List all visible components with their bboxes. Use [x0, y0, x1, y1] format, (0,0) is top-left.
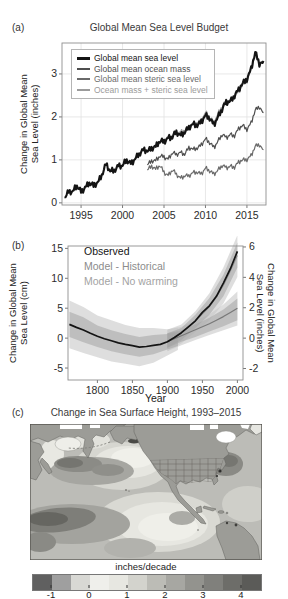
x-tick-label: 2015 [235, 209, 259, 221]
colorbar-tick-labels: -101234 [32, 589, 260, 599]
colorbar-segment [185, 575, 204, 590]
colorbar-tick-mark [127, 585, 128, 588]
colorbar-segment [147, 575, 166, 590]
colorbar-tick-mark [203, 585, 204, 588]
colorbar-tick-label: 3 [200, 589, 205, 599]
sea-surface-height-map [30, 424, 262, 560]
legend-label: Global mean sea level [94, 53, 178, 63]
colorbar-segment [223, 575, 242, 590]
colorbar-tick-mark [241, 585, 242, 588]
x-tick-label: 2000 [111, 209, 135, 221]
y-tick-label: 2 [51, 110, 57, 122]
colorbar-segment [128, 575, 147, 590]
y-tick-label: 5 [57, 302, 63, 314]
colorbar-segment [242, 575, 261, 590]
legend-item: Global mean steric sea level [77, 74, 208, 85]
legend-swatch-line [77, 68, 90, 70]
colorbar-tick-label: 1 [124, 589, 129, 599]
colorbar-segment [109, 575, 128, 590]
right-tick-label: 0 [249, 332, 255, 344]
legend-label: Model - No warming [84, 274, 178, 289]
legend-label: Observed [84, 244, 178, 259]
colorbar-segment [71, 575, 90, 590]
colorbar-tick-mark [50, 585, 51, 588]
colorbar-tick-label: 2 [162, 589, 167, 599]
colorbar-segment [166, 575, 185, 590]
legend-swatch-line [77, 57, 90, 60]
legend-label: Global mean ocean mass [94, 64, 190, 74]
legend-label: Model - Historical [84, 259, 178, 274]
colorbar-segment [33, 575, 52, 590]
x-tick-label: 2010 [194, 209, 218, 221]
x-tick-label: 2005 [152, 209, 176, 221]
legend-swatch-line [77, 89, 90, 91]
y-tick-label: -5 [54, 362, 63, 374]
panel-c-letter: (c) [12, 407, 24, 418]
y-tick-label: 1 [51, 153, 57, 165]
y-tick-label: 0 [57, 332, 63, 344]
legend-item: Global mean ocean mass [77, 64, 208, 75]
panel-a-sea-level-budget: (a) Global Mean Sea Level Budget Change … [0, 18, 288, 234]
panel-b-x-axis-label: Year [68, 392, 243, 404]
colorbar-tick-mark [89, 585, 90, 588]
colorbar-tick-label: 0 [86, 589, 91, 599]
right-tick-label: -2 [249, 362, 258, 374]
colorbar-tick-label: -1 [47, 589, 55, 599]
y-tick-label: 3 [51, 67, 57, 79]
x-tick-label: 1995 [69, 209, 93, 221]
panel-b-observed-vs-model: (b) Change in Global Mean Sea Level (cm)… [0, 236, 288, 404]
right-tick-label: 2 [249, 301, 255, 313]
legend-item: Global mean sea level [77, 53, 208, 64]
colorbar-label: inches/decade [30, 561, 262, 572]
colorbar-tick-label: 4 [238, 589, 243, 599]
y-tick-label: 15 [51, 242, 63, 254]
panel-c-title: Change in Sea Surface Height, 1993–2015 [30, 407, 262, 418]
y-tick-label: 0 [51, 196, 57, 208]
panel-c-sea-surface-height-map: (c) Change in Sea Surface Height, 1993–2… [0, 404, 288, 599]
colorbar-segment [90, 575, 109, 590]
legend-swatch-line [77, 78, 90, 80]
y-tick-label: 10 [51, 272, 63, 284]
colorbar-tick-mark [165, 585, 166, 588]
right-tick-label: 6 [249, 240, 255, 252]
right-tick-label: 4 [249, 271, 255, 283]
legend-label: Global mean steric sea level [94, 74, 201, 84]
panel-a-legend: Global mean sea levelGlobal mean ocean m… [71, 49, 215, 99]
colorbar-segment [204, 575, 223, 590]
panel-b-legend: ObservedModel - HistoricalModel - No war… [84, 244, 178, 289]
legend-item: Ocean mass + steric sea level [77, 85, 208, 96]
legend-label: Ocean mass + steric sea level [94, 85, 208, 95]
colorbar-segment [52, 575, 71, 590]
